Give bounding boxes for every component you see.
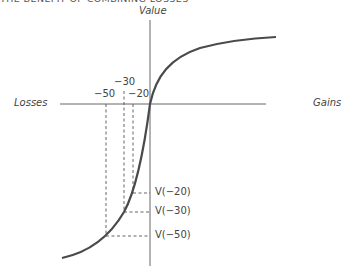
tick-minus-50: −50 xyxy=(94,88,115,99)
tick-minus-20: −20 xyxy=(128,88,149,99)
tick-minus-30: −30 xyxy=(114,76,135,87)
gains-label: Gains xyxy=(313,97,341,108)
value-minus-30-label: V(−30) xyxy=(155,205,191,216)
y-axis-label: Value xyxy=(139,5,167,16)
value-minus-20-label: V(−20) xyxy=(155,186,191,197)
value-minus-50-label: V(−50) xyxy=(155,229,191,240)
dashed-guides xyxy=(106,91,150,236)
losses-label: Losses xyxy=(14,97,47,108)
value-curve xyxy=(62,37,276,258)
